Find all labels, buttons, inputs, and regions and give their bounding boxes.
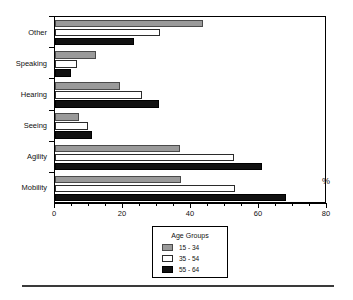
bar-seeing-55-64 [55,131,92,139]
bar-speaking-15-34 [55,51,96,59]
y-axis-tick [49,16,54,17]
bar-agility-55-64 [55,163,262,171]
legend-item-label: 55 - 64 [179,266,199,273]
legend-swatch-icon [162,244,173,251]
chart-page: OtherSpeakingHearingSeeingAgilityMobilit… [0,0,353,300]
x-axis-minor-tick [88,203,89,206]
footer-divider [22,285,334,287]
category-label-other: Other [28,27,47,36]
legend-item-15-34: 15 - 34 [162,244,199,251]
y-axis-tick [49,78,54,79]
legend-item-label: 35 - 54 [179,255,199,262]
x-axis-tick-label: 20 [118,209,126,218]
legend-item-55-64: 55 - 64 [162,266,199,273]
bar-mobility-55-64 [55,194,286,202]
category-label-seeing: Seeing [24,121,47,130]
bar-other-35-54 [55,29,160,37]
legend-item-35-54: 35 - 54 [162,255,199,262]
x-axis-minor-tick [241,203,242,206]
x-axis-minor-tick [224,203,225,206]
bar-speaking-35-54 [55,60,77,68]
x-axis-major-tick [190,203,191,208]
bar-mobility-15-34 [55,176,181,184]
bar-hearing-35-54 [55,91,142,99]
bar-mobility-35-54 [55,185,235,193]
x-axis-major-tick [326,203,327,208]
category-label-speaking: Speaking [16,58,47,67]
legend-title: Age Groups [153,232,227,239]
category-label-agility: Agility [27,152,47,161]
x-axis-minor-tick [173,203,174,206]
bar-other-15-34 [55,20,203,28]
x-axis-tick-label: 60 [254,209,262,218]
bar-speaking-55-64 [55,69,71,77]
bar-other-55-64 [55,38,134,46]
category-label-hearing: Hearing [21,89,47,98]
x-axis-minor-tick [275,203,276,206]
category-axis-labels: OtherSpeakingHearingSeeingAgilityMobilit… [0,16,52,203]
legend-swatch-icon [162,266,173,273]
x-axis-minor-tick [105,203,106,206]
y-axis-tick [49,172,54,173]
bar-seeing-15-34 [55,113,79,121]
legend: Age Groups 15 - 3435 - 5455 - 64 [152,226,228,278]
x-axis-tick-label: 80 [322,209,330,218]
x-axis-minor-tick [156,203,157,206]
x-axis-minor-tick [207,203,208,206]
category-label-mobility: Mobility [22,183,47,192]
bar-hearing-15-34 [55,82,120,90]
x-axis-minor-tick [309,203,310,206]
x-axis-tick-label: 0 [52,209,56,218]
bar-agility-15-34 [55,145,180,153]
x-axis-tick-label: 40 [186,209,194,218]
legend-item-label: 15 - 34 [179,244,199,251]
x-axis-major-tick [122,203,123,208]
y-axis-tick [49,110,54,111]
bar-agility-35-54 [55,154,234,162]
y-axis-tick [49,47,54,48]
x-axis-minor-tick [292,203,293,206]
bars-layer [55,17,325,202]
x-axis-minor-tick [139,203,140,206]
bar-seeing-35-54 [55,122,88,130]
y-axis-tick [49,141,54,142]
x-axis-minor-tick [71,203,72,206]
bar-hearing-55-64 [55,100,159,108]
x-axis-major-tick [54,203,55,208]
x-axis-major-tick [258,203,259,208]
legend-swatch-icon [162,255,173,262]
percent-axis-label: % [322,176,330,186]
